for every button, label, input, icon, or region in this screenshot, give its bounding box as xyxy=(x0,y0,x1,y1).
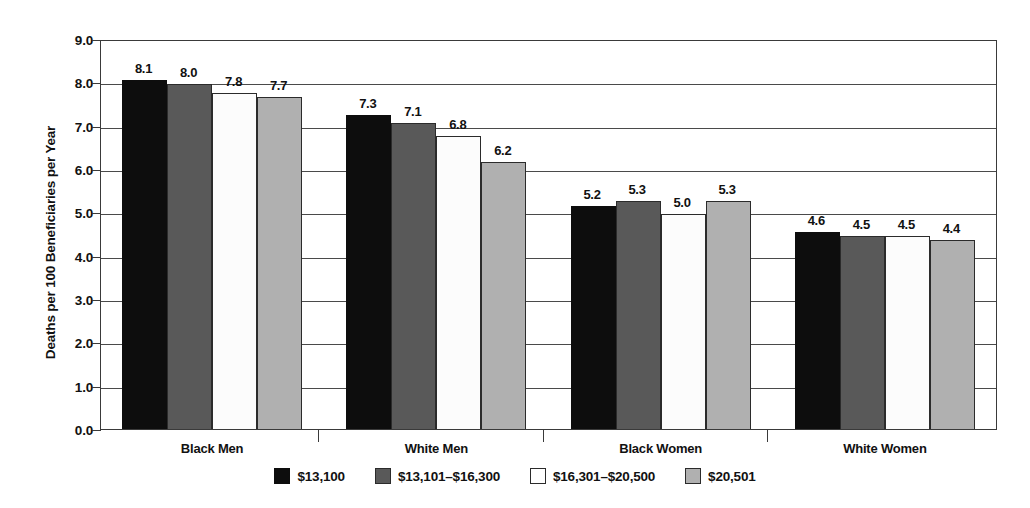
bar xyxy=(391,123,436,430)
legend-label: $13,101–$16,300 xyxy=(398,469,500,484)
y-axis-tick-label: 6.0 xyxy=(23,163,93,178)
y-axis-tick-mark xyxy=(92,300,101,301)
bar xyxy=(122,80,167,430)
x-axis-category-label: White Men xyxy=(324,441,548,456)
bar xyxy=(930,240,975,430)
chart-legend: $13,100$13,101–$16,300$16,301–$20,500$20… xyxy=(0,468,1030,484)
y-axis-tick-mark xyxy=(92,40,101,41)
y-axis-tick-mark xyxy=(92,127,101,128)
y-axis-tick-mark xyxy=(92,170,101,171)
bar-value-label: 5.0 xyxy=(653,195,712,210)
x-axis-category-label: White Women xyxy=(773,441,997,456)
plot-area xyxy=(100,40,997,430)
x-axis-category-label: Black Men xyxy=(100,441,324,456)
y-axis-tick-label: 3.0 xyxy=(23,293,93,308)
bar xyxy=(167,84,212,430)
legend-swatch xyxy=(685,468,701,484)
bar xyxy=(885,236,930,430)
bar xyxy=(571,206,616,430)
y-axis-tick-mark xyxy=(92,257,101,258)
legend-swatch xyxy=(530,468,546,484)
legend-label: $20,501 xyxy=(708,469,755,484)
bar-value-label: 5.3 xyxy=(698,182,757,197)
y-axis-tick-label: 1.0 xyxy=(23,379,93,394)
legend-label: $16,301–$20,500 xyxy=(553,469,655,484)
y-axis-tick-mark xyxy=(92,430,101,431)
y-axis-tick-mark xyxy=(92,213,101,214)
y-axis-tick-label: 2.0 xyxy=(23,336,93,351)
bar xyxy=(706,201,751,430)
bar-value-label: 4.4 xyxy=(922,221,981,236)
bar xyxy=(257,97,302,430)
bar xyxy=(481,162,526,430)
bar xyxy=(795,232,840,430)
bar xyxy=(212,93,257,430)
legend-item: $16,301–$20,500 xyxy=(530,468,655,484)
bar xyxy=(840,236,885,430)
y-axis-tick-mark xyxy=(92,83,101,84)
y-axis-tick-label: 8.0 xyxy=(23,76,93,91)
bar xyxy=(436,136,481,430)
y-axis-tick-label: 7.0 xyxy=(23,119,93,134)
legend-item: $13,101–$16,300 xyxy=(375,468,500,484)
bar xyxy=(661,214,706,430)
chart-figure: Deaths per 100 Beneficiaries per Year 0.… xyxy=(0,0,1030,508)
y-axis-tick-mark xyxy=(92,343,101,344)
y-axis-tick-label: 0.0 xyxy=(23,423,93,438)
legend-item: $13,100 xyxy=(274,468,344,484)
legend-item: $20,501 xyxy=(685,468,755,484)
bar-value-label: 6.2 xyxy=(473,143,532,158)
y-axis-tick-mark xyxy=(92,387,101,388)
y-axis-tick-label: 9.0 xyxy=(23,33,93,48)
bar xyxy=(346,115,391,430)
y-axis-tick-label: 5.0 xyxy=(23,206,93,221)
legend-label: $13,100 xyxy=(297,469,344,484)
bar-value-label: 7.7 xyxy=(249,78,308,93)
bar xyxy=(616,201,661,430)
bar-value-label: 6.8 xyxy=(428,117,487,132)
y-axis-tick-labels: 0.01.02.03.04.05.06.07.08.09.0 xyxy=(15,0,93,508)
y-axis-tick-label: 4.0 xyxy=(23,249,93,264)
legend-swatch xyxy=(375,468,391,484)
x-axis-category-label: Black Women xyxy=(549,441,773,456)
legend-swatch xyxy=(274,468,290,484)
